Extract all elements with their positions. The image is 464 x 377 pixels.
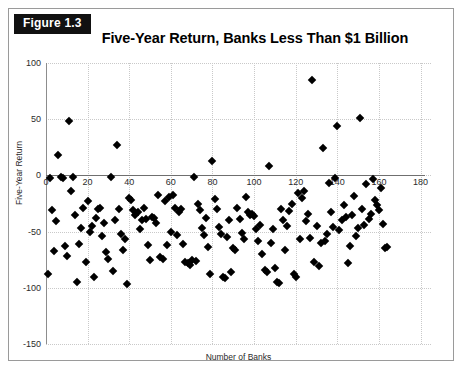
scatter-point: [379, 219, 387, 227]
scatter-point: [98, 232, 106, 240]
gridline-vertical: [254, 63, 255, 344]
scatter-point: [298, 194, 306, 202]
scatter-point: [254, 236, 262, 244]
scatter-point: [154, 190, 162, 198]
scatter-point: [90, 272, 98, 280]
y-axis-tick-label: 100: [26, 58, 41, 68]
scatter-point: [204, 243, 212, 251]
scatter-point: [67, 187, 75, 195]
scatter-point: [92, 214, 100, 222]
scatter-point: [339, 200, 347, 208]
scatter-point: [190, 172, 198, 180]
scatter-point: [258, 250, 266, 258]
scatter-point: [231, 245, 239, 253]
x-axis-tick-label: 60: [166, 177, 176, 187]
scatter-point: [285, 207, 293, 215]
plot-area: 020406080100120140160180100500-50-100-15…: [46, 63, 431, 344]
gridline-horizontal: [46, 63, 431, 64]
scatter-point: [71, 210, 79, 218]
scatter-point: [319, 144, 327, 152]
scatter-point: [113, 141, 121, 149]
scatter-point: [106, 172, 114, 180]
scatter-point: [104, 254, 112, 262]
scatter-point: [196, 206, 204, 214]
scatter-point: [79, 204, 87, 212]
scatter-point: [271, 263, 279, 271]
figure-page: Figure 1.3 Five-Year Return, Banks Less …: [0, 0, 464, 377]
scatter-point: [350, 191, 358, 199]
scatter-point: [60, 242, 68, 250]
scatter-point: [121, 235, 129, 243]
gridline-vertical: [337, 63, 338, 344]
scatter-point: [344, 259, 352, 267]
scatter-point: [312, 222, 320, 230]
scatter-point: [227, 268, 235, 276]
scatter-point: [119, 245, 127, 253]
scatter-point: [283, 222, 291, 230]
scatter-point: [212, 205, 220, 213]
scatter-point: [115, 205, 123, 213]
scatter-point: [250, 212, 258, 220]
scatter-point: [54, 151, 62, 159]
gridline-horizontal: [46, 119, 431, 120]
scatter-point: [75, 240, 83, 248]
scatter-point: [100, 218, 108, 226]
scatter-point: [63, 252, 71, 260]
y-axis-line: [46, 63, 47, 344]
x-axis-tick-label: 40: [124, 177, 134, 187]
y-axis-label: Five-Year Return: [14, 141, 24, 205]
scatter-point: [48, 206, 56, 214]
scatter-point: [233, 204, 241, 212]
scatter-point: [108, 267, 116, 275]
scatter-point: [83, 197, 91, 205]
gridline-horizontal: [46, 344, 431, 345]
scatter-point: [162, 241, 170, 249]
y-axis-tick-label: -50: [28, 227, 41, 237]
scatter-point: [202, 214, 210, 222]
y-axis-tick-label: -150: [23, 339, 41, 349]
scatter-point: [225, 216, 233, 224]
x-axis-tick-label: 180: [413, 177, 428, 187]
scatter-point: [346, 242, 354, 250]
scatter-point: [146, 255, 154, 263]
scatter-point: [50, 246, 58, 254]
scatter-point: [296, 235, 304, 243]
scatter-point: [308, 76, 316, 84]
scatter-point: [267, 239, 275, 247]
gridline-vertical: [171, 63, 172, 344]
scatter-point: [242, 193, 250, 201]
scatter-point: [264, 162, 272, 170]
y-axis-tick-label: 50: [31, 114, 41, 124]
scatter-point: [144, 241, 152, 249]
gridline-horizontal: [46, 288, 431, 289]
scatter-point: [52, 217, 60, 225]
scatter-point: [333, 122, 341, 130]
scatter-point: [152, 218, 160, 226]
scatter-point: [281, 245, 289, 253]
y-axis-tick-label: 0: [36, 170, 41, 180]
gridline-vertical: [212, 63, 213, 344]
scatter-point: [73, 278, 81, 286]
scatter-point: [327, 208, 335, 216]
scatter-point: [179, 240, 187, 248]
scatter-point: [306, 234, 314, 242]
y-axis-tick-label: -100: [23, 283, 41, 293]
scatter-point: [356, 114, 364, 122]
scatter-point: [239, 235, 247, 243]
scatter-point: [362, 180, 370, 188]
scatter-point: [375, 206, 383, 214]
gridline-vertical: [421, 63, 422, 344]
x-axis-tick-label: 80: [207, 177, 217, 187]
scatter-point: [69, 172, 77, 180]
scatter-point: [352, 232, 360, 240]
scatter-point: [358, 205, 366, 213]
x-axis-tick-label: 100: [247, 177, 262, 187]
scatter-point: [235, 215, 243, 223]
scatter-point: [208, 157, 216, 165]
scatter-point: [223, 233, 231, 241]
scatter-point: [110, 216, 118, 224]
x-axis-line: [46, 175, 425, 176]
x-axis-label: Number of Banks: [46, 352, 431, 362]
x-axis-tick-label: 120: [288, 177, 303, 187]
chart-title: Five-Year Return, Banks Less Than $1 Bil…: [80, 30, 430, 46]
